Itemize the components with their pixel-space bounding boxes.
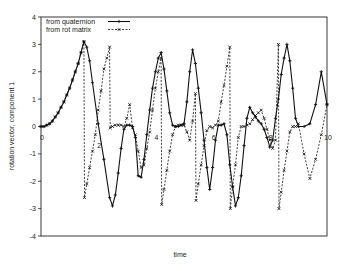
legend-swatches xyxy=(108,20,130,31)
plot-frame xyxy=(41,17,327,236)
y-axis-ticks: -4-3-2-101234 xyxy=(30,14,41,240)
time-marker-label: 4 xyxy=(154,134,158,141)
time-marker-label: 0 xyxy=(40,134,44,141)
data-series xyxy=(39,40,328,210)
y-tick-label: 3 xyxy=(32,41,36,48)
y-tick-label: 2 xyxy=(32,68,36,75)
plot-border xyxy=(41,17,327,236)
y-axis-label: rotation vector, component 1 xyxy=(8,82,16,170)
y-tick-label: 1 xyxy=(32,96,36,103)
time-marker-label: 2 xyxy=(97,142,101,149)
time-marker-label: 10 xyxy=(324,134,332,141)
line-chart: -4-3-2-101234 0246810 from quaternion fr… xyxy=(0,0,347,271)
time-annotations: 0246810 xyxy=(40,134,332,149)
y-tick-label: -1 xyxy=(30,150,36,157)
legend-label-rot-matrix: from rot matrix xyxy=(46,26,92,33)
y-tick-label: -4 xyxy=(30,233,36,240)
legend-label-quaternion: from quaternion xyxy=(46,18,95,26)
y-tick-label: -2 xyxy=(30,178,36,185)
legend: from quaternion from rot matrix xyxy=(46,18,130,33)
y-tick-label: -3 xyxy=(30,205,36,212)
y-tick-label: 4 xyxy=(32,14,36,21)
x-axis-label: time xyxy=(173,251,186,258)
y-tick-label: 0 xyxy=(32,123,36,130)
